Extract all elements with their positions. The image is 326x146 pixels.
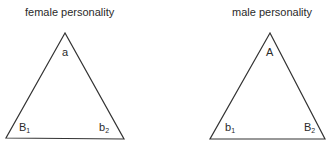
triangles-canvas [0, 0, 326, 146]
male-left-label: b1 [225, 122, 235, 136]
female-left-label: B1 [19, 122, 30, 136]
male-apex-label: A [266, 47, 273, 58]
male-personality-title: male personality [232, 6, 312, 18]
male-right-label: B2 [304, 122, 315, 136]
female-apex-label: a [62, 47, 68, 58]
female-right-label: b2 [99, 122, 109, 136]
female-personality-title: female personality [25, 6, 114, 18]
